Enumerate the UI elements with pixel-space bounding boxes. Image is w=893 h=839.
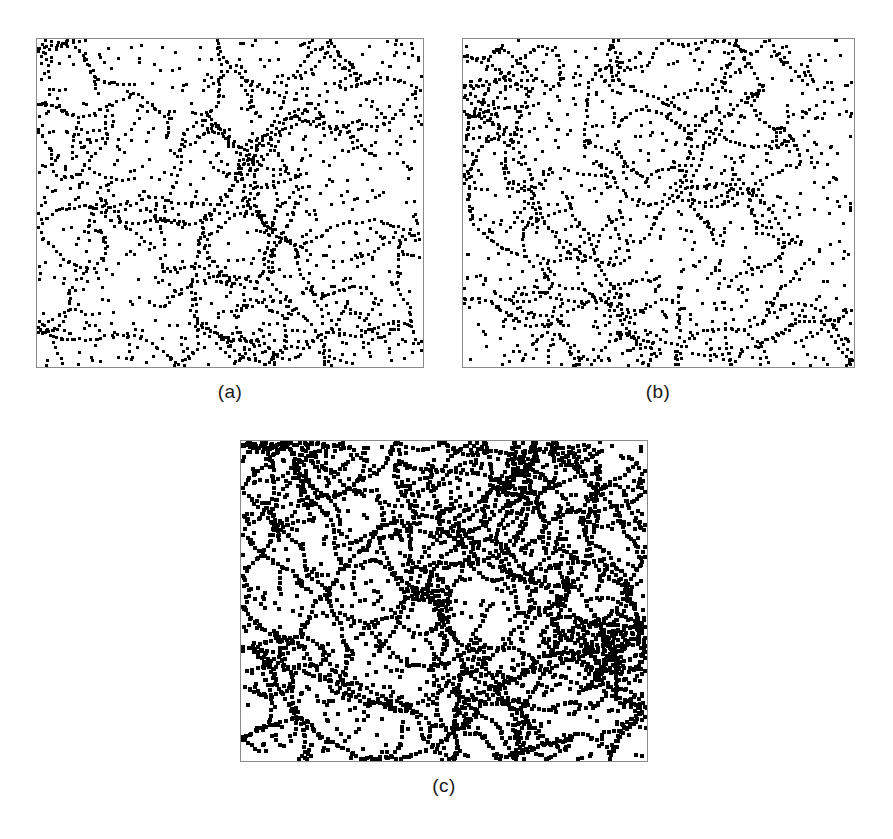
panel-a [36,38,424,368]
panel-c-point-plot [240,440,648,762]
panel-a-label: (a) [175,381,285,403]
panel-c [240,440,648,762]
figure-container: (a)(b)(c) [0,0,893,839]
panel-b-label: (b) [603,381,713,403]
panel-c-label: (c) [389,775,499,797]
panel-a-point-plot [36,38,424,368]
panel-b-point-plot [462,38,855,368]
panel-b [462,38,855,368]
